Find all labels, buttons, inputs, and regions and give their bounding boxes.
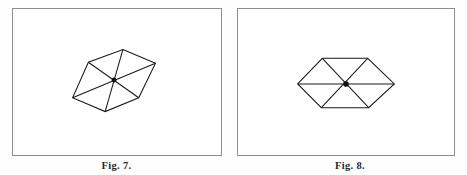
figure-drawing-8 [238,9,454,155]
figure-frame-8 [237,8,455,156]
figure-frame-7 [12,8,222,156]
hexagon-center-dot-7 [112,78,116,82]
figure-block-8: Fig. 8. [233,0,467,175]
figure-caption-7: Fig. 7. [0,160,233,171]
hexagon-center-dot-8 [343,81,348,86]
figure-caption-8: Fig. 8. [233,160,467,171]
figure-drawing-7 [13,9,221,155]
figure-block-7: Fig. 7. [0,0,233,175]
figure-sheet: Fig. 7. Fig. 8. [0,0,467,175]
